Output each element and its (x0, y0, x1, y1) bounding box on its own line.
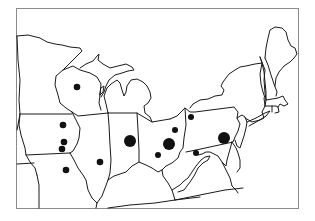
marker-pennsylvania-erie (188, 114, 194, 120)
marker-pennsylvania-south (193, 150, 199, 156)
marker-wisconsin (74, 84, 81, 91)
marker-ohio-northwest (172, 127, 178, 133)
marker-iowa-south (59, 146, 66, 153)
marker-iowa-north (60, 122, 67, 129)
marker-ohio-central (163, 138, 175, 150)
marker-iowa-central (61, 139, 68, 146)
marker-illinois (97, 159, 104, 166)
marker-missouri (63, 167, 70, 174)
marker-pennsylvania-east (218, 132, 230, 144)
marker-ohio-south (155, 152, 161, 158)
map-frame (17, 9, 299, 209)
marker-indiana (124, 135, 136, 147)
map (0, 0, 315, 221)
